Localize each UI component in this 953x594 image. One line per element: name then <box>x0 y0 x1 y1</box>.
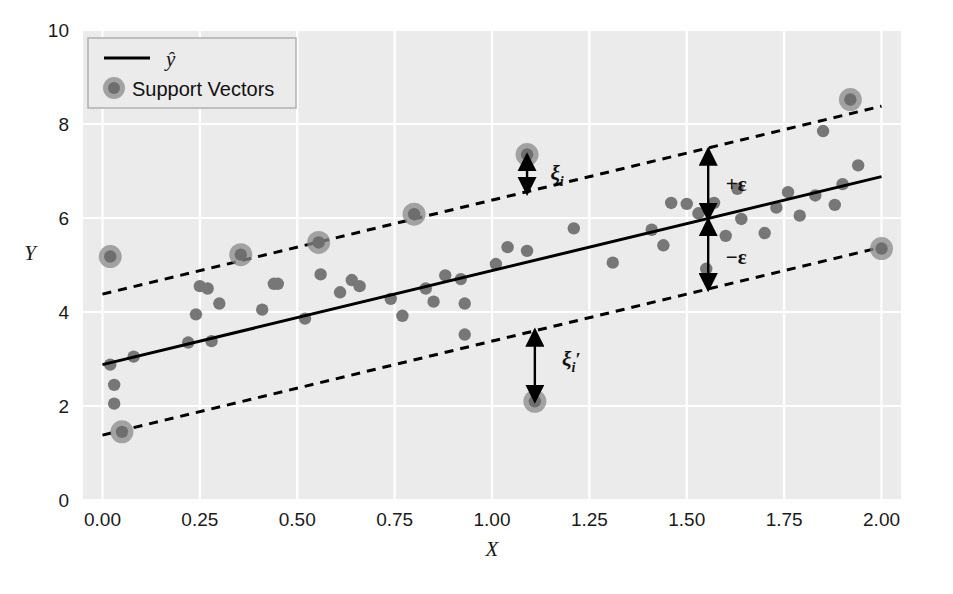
data-point <box>681 198 693 210</box>
x-tick-label: 0.75 <box>376 509 413 530</box>
data-point <box>817 125 829 137</box>
data-point <box>794 209 806 221</box>
legend-label-yhat: ŷ <box>164 47 176 71</box>
chart-figure: { "chart_data": { "type": "scatter", "ti… <box>0 0 953 594</box>
annotation-label-minus-epsilon: −ε <box>726 245 747 269</box>
y-axis-title: Y <box>24 241 38 265</box>
data-point <box>700 263 712 275</box>
data-point <box>708 197 720 209</box>
support-vector-point <box>116 426 128 438</box>
y-tick-label: 0 <box>58 490 69 511</box>
x-axis-title: X <box>485 537 500 561</box>
support-vector-point <box>312 236 324 248</box>
data-point <box>190 308 202 320</box>
x-tick-label: 0.50 <box>279 509 316 530</box>
data-point <box>521 245 533 257</box>
y-tick-label: 10 <box>48 20 69 41</box>
data-point <box>657 239 669 251</box>
x-tick-label: 1.25 <box>571 509 608 530</box>
data-point <box>735 213 747 225</box>
data-point <box>782 186 794 198</box>
data-point <box>607 256 619 268</box>
data-point <box>665 197 677 209</box>
data-point <box>353 280 365 292</box>
data-point <box>427 295 439 307</box>
data-point <box>334 286 346 298</box>
annotation-label-plus-epsilon: +ε <box>726 172 747 196</box>
support-vector-point <box>844 93 856 105</box>
x-tick-label: 1.75 <box>766 509 803 530</box>
data-point <box>213 297 225 309</box>
y-tick-label: 2 <box>58 396 69 417</box>
y-tick-label: 8 <box>58 114 69 135</box>
data-point <box>256 303 268 315</box>
data-point <box>108 379 120 391</box>
support-vector-point <box>875 242 887 254</box>
x-tick-label: 1.50 <box>668 509 705 530</box>
data-point <box>396 310 408 322</box>
x-tick-label: 2.00 <box>863 509 900 530</box>
data-point <box>314 268 326 280</box>
scatter-plot-canvas: ξiξi′+ε−ε0.000.250.500.751.001.251.501.7… <box>0 0 953 594</box>
chart-svg: ξiξi′+ε−ε0.000.250.500.751.001.251.501.7… <box>0 0 953 594</box>
data-point <box>108 397 120 409</box>
legend-circle-swatch <box>108 82 120 94</box>
data-point <box>201 282 213 294</box>
data-point <box>758 227 770 239</box>
data-point <box>852 159 864 171</box>
data-point <box>692 207 704 219</box>
legend-label-support-vectors: Support Vectors <box>132 78 274 100</box>
y-tick-label: 4 <box>58 302 69 323</box>
support-vector-point <box>235 248 247 260</box>
x-tick-label: 1.00 <box>474 509 511 530</box>
support-vector-point <box>408 208 420 220</box>
x-tick-label: 0.25 <box>181 509 218 530</box>
data-point <box>829 199 841 211</box>
data-point <box>459 297 471 309</box>
y-tick-label: 6 <box>58 208 69 229</box>
data-point <box>501 241 513 253</box>
data-point <box>720 230 732 242</box>
data-point <box>272 278 284 290</box>
data-point <box>568 222 580 234</box>
data-point <box>459 328 471 340</box>
x-tick-label: 0.00 <box>84 509 121 530</box>
support-vector-point <box>104 250 116 262</box>
